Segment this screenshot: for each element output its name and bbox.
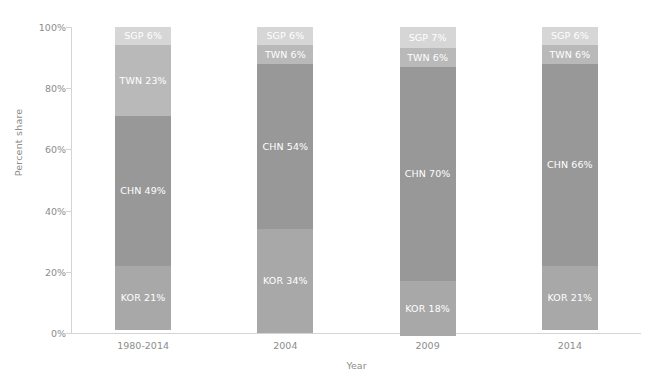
bar-segment-kor[interactable]: KOR 34% — [257, 229, 313, 333]
bar-segment-label: CHN 70% — [405, 169, 451, 179]
bar-segment-label: CHN 54% — [263, 142, 309, 152]
bar-segment-label: SGP 6% — [124, 31, 162, 41]
bar-segment-label: KOR 18% — [405, 304, 450, 314]
bar-segment-chn[interactable]: CHN 66% — [542, 64, 598, 266]
bar-segment-chn[interactable]: CHN 70% — [400, 67, 456, 281]
bar-segment-label: CHN 66% — [547, 160, 593, 170]
bar-segment-label: KOR 21% — [121, 293, 166, 303]
bar-segment-label: TWN 6% — [265, 50, 306, 60]
y-axis-tick-label: 100% — [26, 22, 66, 33]
bar-segment-label: SGP 6% — [266, 31, 304, 41]
plot-area: SGP 6%TWN 23%CHN 49%KOR 21%SGP 6%TWN 6%C… — [72, 27, 641, 333]
bar-segment-sgp[interactable]: SGP 7% — [400, 27, 456, 48]
bar-segment-label: KOR 34% — [263, 276, 308, 286]
x-axis-tick-label: 2004 — [214, 340, 356, 360]
stacked-bar[interactable]: SGP 6%TWN 6%CHN 66%KOR 21% — [542, 27, 598, 333]
y-axis-tick-mark — [66, 272, 71, 273]
bar-segment-twn[interactable]: TWN 6% — [257, 45, 313, 63]
x-axis-tick-label: 2009 — [357, 340, 499, 360]
bar-slot: SGP 6%TWN 6%CHN 66%KOR 21% — [499, 27, 641, 333]
bar-segment-chn[interactable]: CHN 54% — [257, 64, 313, 229]
bar-segment-twn[interactable]: TWN 6% — [542, 45, 598, 63]
stacked-bar[interactable]: SGP 6%TWN 6%CHN 54%KOR 34% — [257, 27, 313, 333]
bar-segment-label: TWN 6% — [407, 53, 448, 63]
y-axis-tick-mark — [66, 211, 71, 212]
stacked-bar[interactable]: SGP 7%TWN 6%CHN 70%KOR 18% — [400, 27, 456, 333]
y-axis-tick-label: 80% — [26, 83, 66, 94]
bar-slot: SGP 7%TWN 6%CHN 70%KOR 18% — [357, 27, 499, 333]
stacked-bar[interactable]: SGP 6%TWN 23%CHN 49%KOR 21% — [115, 27, 171, 333]
bar-slot: SGP 6%TWN 6%CHN 54%KOR 34% — [214, 27, 356, 333]
bar-segment-label: SGP 6% — [551, 31, 589, 41]
bar-segment-chn[interactable]: CHN 49% — [115, 116, 171, 266]
stacked-bar-chart: Percent share 0%20%40%60%80%100% SGP 6%T… — [0, 0, 649, 383]
y-axis-tick-label: 40% — [26, 205, 66, 216]
bar-segment-label: SGP 7% — [409, 33, 447, 43]
bar-segment-kor[interactable]: KOR 21% — [115, 266, 171, 330]
bar-segment-label: CHN 49% — [120, 186, 166, 196]
bar-segment-kor[interactable]: KOR 21% — [542, 266, 598, 330]
bar-segment-label: TWN 6% — [549, 50, 590, 60]
bar-slot: SGP 6%TWN 23%CHN 49%KOR 21% — [72, 27, 214, 333]
x-axis-tick-labels: 1980-2014200420092014 — [72, 340, 641, 360]
bar-segment-twn[interactable]: TWN 6% — [400, 48, 456, 66]
y-axis-tick-label: 0% — [26, 328, 66, 339]
y-axis-tick-labels: 0%20%40%60%80%100% — [22, 0, 66, 383]
x-axis-tick-label: 2014 — [499, 340, 641, 360]
bar-segment-sgp[interactable]: SGP 6% — [542, 27, 598, 45]
y-axis-tick-label: 20% — [26, 266, 66, 277]
bar-segment-sgp[interactable]: SGP 6% — [257, 27, 313, 45]
bar-segment-kor[interactable]: KOR 18% — [400, 281, 456, 336]
bar-segment-sgp[interactable]: SGP 6% — [115, 27, 171, 45]
x-axis-title: Year — [72, 360, 641, 371]
bar-segment-label: TWN 23% — [120, 76, 167, 86]
y-axis-tick-mark — [66, 88, 71, 89]
y-axis-tick-label: 60% — [26, 144, 66, 155]
x-axis-tick-label: 1980-2014 — [72, 340, 214, 360]
y-axis-tick-mark — [66, 149, 71, 150]
bar-segment-twn[interactable]: TWN 23% — [115, 45, 171, 115]
y-axis-tick-mark — [66, 27, 71, 28]
y-axis-tick-mark — [66, 333, 71, 334]
x-axis-line — [71, 333, 641, 334]
bar-segment-label: KOR 21% — [548, 293, 593, 303]
